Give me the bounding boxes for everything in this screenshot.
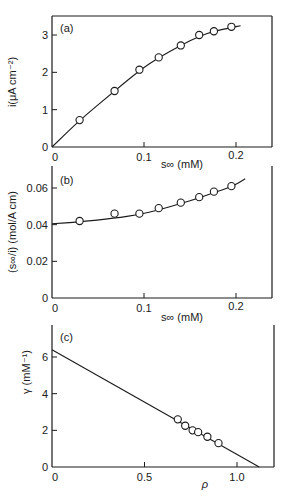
- data-point: [155, 54, 162, 61]
- y-tick-label: 6: [42, 351, 48, 363]
- y-tick-label: 0: [42, 141, 48, 153]
- panel-c-chart: 024600.51.0(c)ργ (mM⁻¹): [20, 325, 274, 490]
- data-point: [228, 183, 235, 190]
- y-axis-label: γ (mM⁻¹): [20, 350, 32, 394]
- data-point: [111, 87, 118, 94]
- data-point: [210, 28, 217, 35]
- panel-label: (c): [60, 331, 73, 343]
- data-point: [177, 42, 184, 49]
- x-axis-label: s∞ (mM): [161, 158, 203, 170]
- data-point: [228, 23, 235, 30]
- y-axis-label: i(μA cm⁻²): [6, 57, 18, 107]
- x-axis-label: ρ: [201, 478, 208, 490]
- y-tick-label: 0.06: [27, 182, 48, 194]
- data-point: [182, 422, 189, 429]
- y-tick-label: 0: [42, 292, 48, 304]
- data-point: [215, 440, 222, 447]
- data-point: [177, 199, 184, 206]
- fit-curve: [52, 26, 241, 147]
- y-axis-label: (s∞/i) (mol/A cm): [6, 191, 18, 273]
- x-tick-label: 0.1: [136, 151, 151, 163]
- data-point: [174, 416, 181, 423]
- x-tick-label: 1.0: [229, 471, 244, 483]
- y-tick-label: 2: [42, 424, 48, 436]
- x-tick-label: 0: [52, 302, 58, 314]
- y-tick-label: 1: [42, 104, 48, 116]
- y-tick-label: 4: [42, 388, 48, 400]
- panel-a-chart: 012300.10.2(a)s∞ (mM)i(μA cm⁻²): [6, 16, 272, 170]
- data-point: [136, 66, 143, 73]
- x-tick-label: 0: [52, 151, 58, 163]
- data-point: [196, 194, 203, 201]
- x-tick-label: 0.2: [228, 149, 243, 161]
- fit-line: [52, 350, 259, 467]
- y-tick-label: 0.04: [27, 219, 48, 231]
- data-point: [111, 210, 118, 217]
- data-point: [76, 217, 83, 224]
- y-tick-label: 0.02: [27, 255, 48, 267]
- data-point: [155, 205, 162, 212]
- figure-canvas: 012300.10.2(a)s∞ (mM)i(μA cm⁻²) 00.020.0…: [0, 0, 286, 498]
- y-tick-label: 0: [42, 461, 48, 473]
- fit-curve: [52, 179, 245, 224]
- y-tick-label: 2: [42, 66, 48, 78]
- panel-label: (a): [60, 22, 73, 34]
- x-tick-label: 0: [52, 471, 58, 483]
- data-point: [204, 433, 211, 440]
- panel-label: (b): [60, 174, 73, 186]
- data-point: [76, 117, 83, 124]
- panel-b-chart: 00.020.040.0600.10.2(b)s∞ (mM)(s∞/i) (mo…: [6, 166, 272, 323]
- data-point: [196, 31, 203, 38]
- data-point: [136, 210, 143, 217]
- data-point: [210, 188, 217, 195]
- x-tick-label: 0.2: [228, 300, 243, 312]
- x-axis-label: s∞ (mM): [161, 311, 203, 323]
- y-tick-label: 3: [42, 29, 48, 41]
- data-point: [195, 429, 202, 436]
- x-tick-label: 0.1: [136, 302, 151, 314]
- x-tick-label: 0.5: [137, 471, 152, 483]
